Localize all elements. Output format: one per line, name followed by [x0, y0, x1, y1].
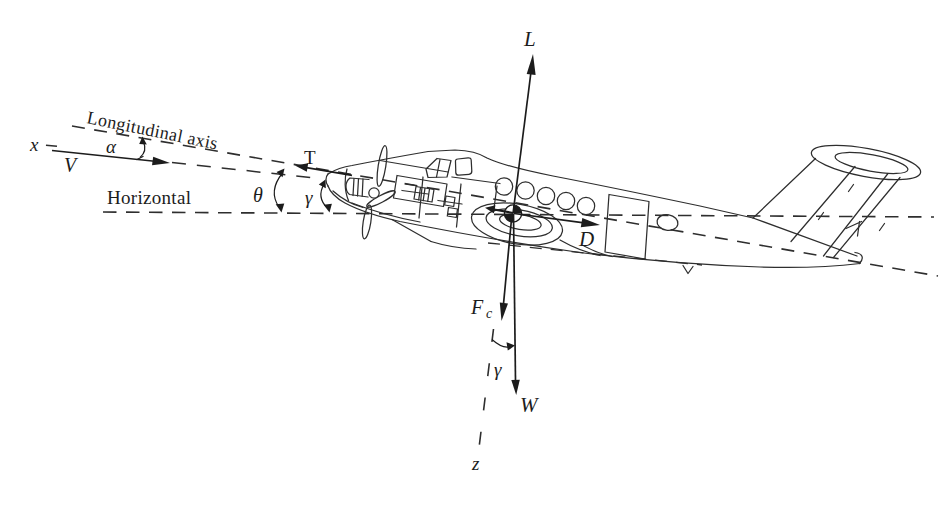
force-vectors [52, 54, 600, 395]
theta-angle-arc [274, 169, 284, 213]
mount-line-3 [406, 184, 414, 185]
weight-vector [511, 214, 520, 395]
lift-vector [513, 54, 536, 214]
propeller [346, 145, 397, 239]
z-axis-label: z [471, 453, 480, 474]
equipment-box-2 [447, 208, 457, 218]
windshield-divider [437, 160, 441, 178]
cabin-door [605, 195, 649, 260]
ventral-fin [683, 266, 693, 274]
fin-leading-edge [753, 159, 816, 219]
gamma-weight-label: γ [494, 359, 502, 380]
drag-label: D [578, 227, 594, 251]
alpha-angle-arc [137, 137, 147, 160]
fin-spar-line [791, 167, 855, 242]
z-axis-dashes [479, 329, 494, 452]
tail-fin [753, 159, 900, 258]
diagram-canvas: Longitudinal axis Horizontal x V α θ γ T… [0, 0, 946, 506]
theta-label: θ [253, 184, 263, 206]
wing-crease-2 [431, 242, 476, 250]
rudder-hinge-line [824, 174, 889, 257]
gamma-flight-path-label: γ [305, 187, 313, 208]
aircraft-force-diagram: Longitudinal axis Horizontal x V α θ γ T… [0, 0, 946, 506]
prop-hub [369, 188, 379, 198]
horizontal-label: Horizontal [107, 187, 191, 208]
gamma-flight-path-arc [319, 180, 332, 213]
wing-crease [392, 220, 431, 242]
gamma-weight-arc [492, 340, 515, 351]
angle-annotations [137, 137, 516, 351]
reference-lines [46, 126, 938, 452]
centrifugal-force-subscript: c [486, 306, 493, 321]
x-axis-label: x [29, 134, 39, 155]
cockpit-side-window [455, 158, 471, 175]
x-axis-dash [46, 145, 57, 146]
frame-line-2 [457, 184, 462, 227]
weight-label: W [520, 393, 540, 417]
centrifugal-force-vector [500, 214, 512, 321]
centrifugal-force-label: F [470, 296, 484, 318]
lift-label: L [523, 27, 536, 51]
alpha-label: α [106, 136, 117, 157]
horizontal-stabilizer [809, 139, 923, 187]
nose-tip [326, 174, 328, 186]
airplane-drawing [326, 139, 923, 274]
cockpit-windows [426, 158, 472, 178]
velocity-label: V [64, 154, 79, 176]
thrust-label: T [304, 147, 316, 168]
cheek-line [452, 177, 500, 184]
